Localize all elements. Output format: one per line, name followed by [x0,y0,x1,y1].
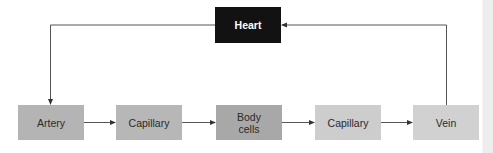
node-capillary-1-label: Capillary [129,117,170,129]
edge-vein-to-heart [282,25,447,105]
node-artery: Artery [18,105,84,140]
page-edge-strip [482,0,493,153]
node-artery-label: Artery [37,117,65,129]
node-capillary-2-label: Capillary [328,117,369,129]
edge-heart-to-artery [51,25,216,104]
node-vein: Vein [413,105,479,140]
node-heart-label: Heart [235,19,262,31]
node-capillary-2: Capillary [315,105,381,140]
node-vein-label: Vein [436,117,456,129]
node-body-cells-label: Body cells [237,111,261,135]
node-capillary-1: Capillary [116,105,182,140]
node-body-cells: Body cells [216,105,282,140]
node-heart: Heart [215,7,281,43]
